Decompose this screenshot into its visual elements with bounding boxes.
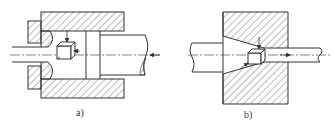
panel-b-drawing xyxy=(188,12,330,104)
stress-cube-a xyxy=(57,30,80,59)
die-block-top xyxy=(223,12,288,48)
figure-canvas xyxy=(0,0,335,130)
die-plate-bottom xyxy=(28,66,41,89)
die-plate-top xyxy=(28,21,41,43)
die-insert-top xyxy=(41,31,53,47)
panel-a-drawing xyxy=(10,12,160,98)
container-top-wall xyxy=(41,12,124,31)
panel-a-label: a) xyxy=(76,107,84,118)
panel-b-label: b) xyxy=(244,109,252,120)
die-insert-bottom xyxy=(41,62,53,79)
die-block-bottom xyxy=(223,62,288,104)
container-bottom-wall xyxy=(41,79,124,98)
